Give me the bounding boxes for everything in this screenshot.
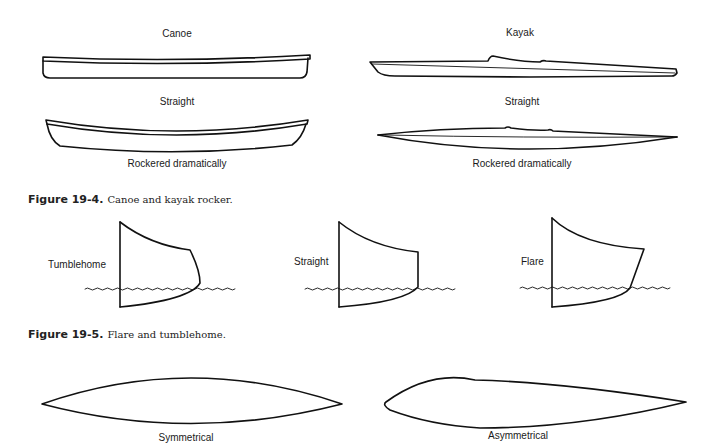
asymmetrical-label: Asymmetrical: [488, 430, 548, 441]
figure-19-4-text: Canoe and kayak rocker.: [107, 194, 232, 205]
straight-section-label: Straight: [294, 256, 328, 267]
asymmetrical-hull-drawing: [385, 378, 686, 428]
kayak-title: Kayak: [506, 27, 534, 38]
figure-19-4-number: Figure 19-4.: [28, 193, 103, 206]
canoe-title: Canoe: [162, 28, 191, 39]
canoe-straight-label: Straight: [160, 96, 194, 107]
figure-19-5-caption: Figure 19-5.Flare and tumblehome.: [28, 328, 226, 341]
figure-19-5-text: Flare and tumblehome.: [107, 329, 225, 340]
kayak-rockered-label: Rockered dramatically: [473, 158, 572, 169]
diagram-canvas: [0, 0, 712, 445]
canoe-rockered-label: Rockered dramatically: [128, 158, 227, 169]
tumblehome-label: Tumblehome: [48, 259, 106, 270]
flare-label: Flare: [521, 256, 544, 267]
tumblehome-section-drawing: [85, 222, 235, 307]
canoe-straight-drawing: [43, 55, 310, 78]
canoe-rockered-drawing: [46, 120, 308, 152]
symmetrical-hull-drawing: [42, 378, 342, 424]
kayak-straight-drawing: [370, 56, 677, 77]
kayak-straight-label: Straight: [505, 96, 539, 107]
kayak-rockered-drawing: [378, 127, 677, 149]
symmetrical-label: Symmetrical: [158, 432, 213, 443]
figure-19-5-number: Figure 19-5.: [28, 328, 103, 341]
figure-19-4-caption: Figure 19-4.Canoe and kayak rocker.: [28, 193, 233, 206]
